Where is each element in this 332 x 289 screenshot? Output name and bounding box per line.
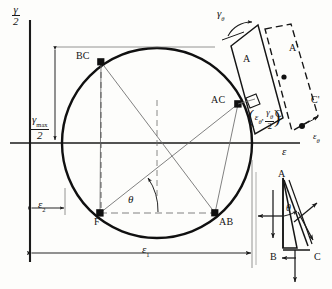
line-F-AC (100, 104, 238, 213)
axis-group (10, 20, 300, 262)
point-label-AB: AB (219, 217, 233, 227)
point-BC (97, 58, 104, 65)
element-label-A: A (243, 54, 250, 64)
point-AC (234, 100, 241, 107)
element-eps-theta-subscript: θ (317, 137, 320, 144)
vertical-axis-denominator: 2 (12, 15, 20, 27)
element-label-epsilon-theta: εθ (313, 126, 320, 145)
inset-label-C: C (314, 252, 321, 262)
inset-label-theta: θ (286, 203, 291, 213)
coord-gamma-numerator: γθ (265, 102, 274, 121)
epsilon2-subscript: 2 (42, 206, 45, 213)
gamma-theta-subscript: θ (221, 15, 224, 22)
mohr-circle-figure: γ 2 γmax 2 ε ε2 ε1 BC AC F AB θ (0, 0, 332, 289)
inset-label-B: B (270, 252, 277, 262)
vertical-axis-label: γ 2 (12, 4, 20, 27)
point-AB (211, 209, 218, 216)
coord-gamma-subscript: θ (270, 113, 273, 120)
inset-member-AC2 (289, 180, 312, 244)
epsilon2-label: ε2 (38, 195, 46, 214)
point-label-BC: BC (76, 51, 90, 61)
coord-open-paren: ( (248, 107, 254, 126)
inset-label-A: A (278, 169, 285, 179)
gamma-max-numerator-wrap: γmax (31, 110, 49, 129)
element-label-C-prime: C' (311, 95, 320, 105)
horizontal-axis-label: ε (282, 146, 286, 157)
epsilon1-label: ε1 (142, 240, 150, 259)
gamma-max-subscript: max (36, 121, 47, 128)
point-label-AC: AC (211, 95, 225, 105)
vertical-axis-numerator: γ (12, 4, 20, 15)
coord-gamma-denominator: 2 (265, 121, 274, 131)
inset-body-outline (283, 178, 297, 248)
gamma-max-denominator: 2 (31, 129, 49, 141)
construction-lines (100, 62, 238, 213)
gamma-max-label: γmax 2 (31, 110, 49, 141)
theta-label-main: θ (128, 194, 133, 205)
inset-element-group (256, 172, 317, 282)
element-node-eps-theta (299, 123, 305, 129)
data-points (96, 58, 241, 216)
coord-comma: , (262, 112, 264, 122)
epsilon1-subscript: 1 (146, 251, 149, 258)
theta-angle-main (148, 178, 158, 212)
line-BC-AB (101, 62, 215, 213)
arrow-up-right (294, 203, 317, 222)
eps-theta-dim (305, 117, 318, 124)
gamma-theta-label: γθ (217, 4, 225, 23)
element-label-C: C (275, 109, 282, 119)
element-node-A (281, 74, 286, 79)
epsilon2-dimension (32, 188, 65, 215)
element-label-A-prime: A' (289, 43, 298, 53)
point-label-F: F (94, 217, 100, 227)
